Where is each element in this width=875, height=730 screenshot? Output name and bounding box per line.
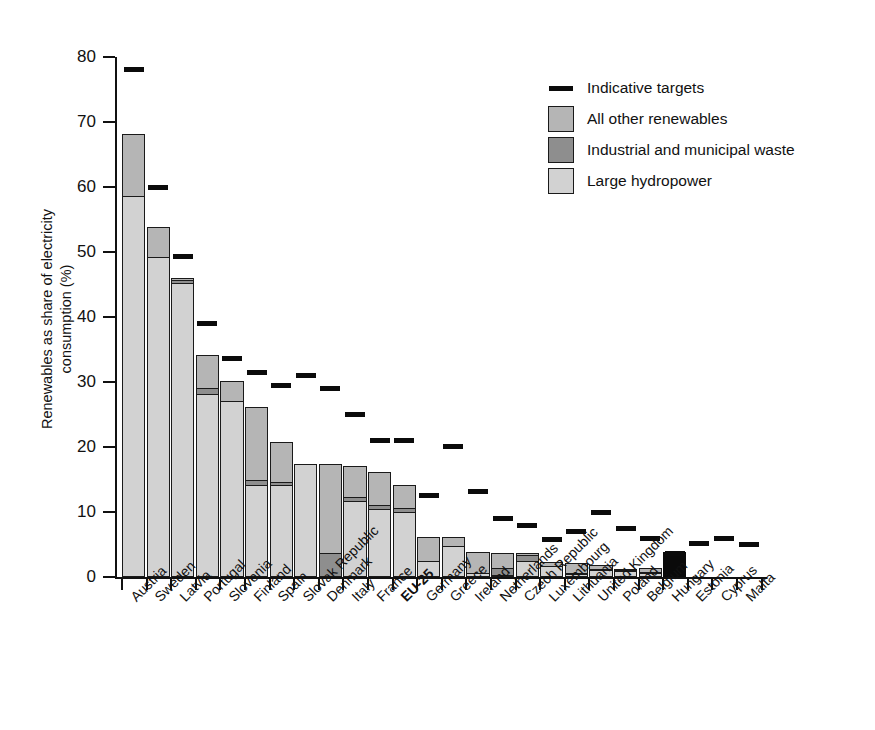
legend-swatch-icon (548, 168, 574, 194)
target-marker (320, 386, 340, 391)
bar-segment (147, 257, 170, 577)
y-tick (103, 251, 115, 253)
target-marker (247, 370, 267, 375)
bar-segment (270, 442, 293, 482)
y-tick (103, 576, 115, 578)
legend-label: All other renewables (587, 110, 727, 127)
legend-item: Industrial and municipal waste (548, 134, 868, 165)
target-marker (493, 516, 513, 521)
target-marker (616, 526, 636, 531)
legend-item: Large hydropower (548, 165, 868, 196)
y-tick (103, 186, 115, 188)
target-marker (591, 510, 611, 515)
plot-area: Renewables as share of electricity consu… (0, 0, 875, 730)
legend-item: All other renewables (548, 103, 868, 134)
chart-legend: Indicative targetsAll other renewablesIn… (548, 72, 868, 196)
target-marker (197, 321, 217, 326)
bar (196, 356, 219, 577)
bar-segment (196, 355, 219, 389)
legend-swatch-icon (548, 137, 574, 163)
bar (294, 465, 317, 577)
y-tick (103, 446, 115, 448)
bar (245, 409, 268, 577)
y-tick (103, 381, 115, 383)
bar-segment (122, 195, 145, 577)
legend-item: Indicative targets (548, 72, 868, 103)
legend-label: Large hydropower (587, 172, 712, 189)
y-tick-label: 20 (56, 438, 96, 455)
bar (270, 444, 293, 577)
bar-segment (220, 400, 243, 577)
target-marker (345, 412, 365, 417)
bar-segment (442, 537, 465, 547)
target-marker (296, 373, 316, 378)
y-axis-line (115, 57, 117, 577)
bar (122, 135, 145, 577)
target-marker (468, 489, 488, 494)
bar-segment (122, 134, 145, 197)
y-tick-label: 60 (56, 178, 96, 195)
y-tick-label: 70 (56, 113, 96, 130)
target-marker (739, 542, 759, 547)
y-tick (103, 56, 115, 58)
legend-label: Industrial and municipal waste (587, 141, 795, 158)
bar-segment (220, 381, 243, 402)
bar (147, 229, 170, 577)
y-tick (103, 511, 115, 513)
target-marker (271, 383, 291, 388)
bar-segment (393, 485, 416, 510)
bar-segment (245, 407, 268, 481)
target-marker (394, 438, 414, 443)
target-marker (689, 541, 709, 546)
target-marker (443, 444, 463, 449)
y-tick-label: 80 (56, 48, 96, 65)
target-marker (148, 185, 168, 190)
target-marker (173, 254, 193, 259)
legend-swatch-icon (548, 106, 574, 132)
target-marker (714, 536, 734, 541)
y-tick-label: 10 (56, 503, 96, 520)
bar-segment (417, 537, 440, 562)
target-marker (124, 67, 144, 72)
y-tick-label: 30 (56, 373, 96, 390)
bar (220, 382, 243, 577)
y-tick-label: 0 (56, 568, 96, 585)
target-marker (665, 551, 685, 556)
bar-segment (294, 464, 317, 577)
bar-segment (171, 283, 194, 577)
bar-segment (368, 472, 391, 507)
chart-figure: Renewables as share of electricity consu… (0, 0, 875, 730)
bar-segment (319, 464, 342, 554)
y-tick (103, 121, 115, 123)
y-tick-label: 40 (56, 308, 96, 325)
bar-segment (147, 227, 170, 258)
bar-segment (343, 466, 366, 499)
x-tick (121, 579, 123, 590)
legend-label: Indicative targets (587, 79, 704, 96)
target-marker (370, 438, 390, 443)
target-marker (419, 493, 439, 498)
y-tick-label: 50 (56, 243, 96, 260)
bar-segment (196, 394, 219, 577)
bar (171, 279, 194, 577)
legend-dash-icon (548, 75, 574, 101)
bar-segment (171, 278, 194, 281)
target-marker (517, 523, 537, 528)
target-marker (222, 356, 242, 361)
y-tick (103, 316, 115, 318)
